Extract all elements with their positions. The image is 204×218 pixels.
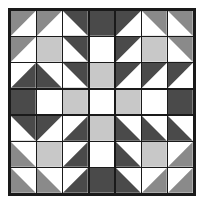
quilt-cell [142,63,167,88]
quilt-patch [168,168,193,193]
quilt-cell [11,142,36,167]
quilt-patch [168,11,193,36]
quilt-cell [11,90,36,115]
quilt-cell [37,90,62,115]
patch-solid [116,90,141,115]
quilt-patch [90,37,115,62]
quilt-patch [37,168,62,193]
quilt-patch [63,116,88,141]
quilt-patch [11,142,36,167]
quilt-patch [90,142,115,167]
quilt-cell [63,63,88,88]
patch-solid [142,90,167,115]
quilt-cell [168,116,193,141]
quilt-cell [37,116,62,141]
quilt-cell [116,37,141,62]
quilt-cell [116,11,141,36]
quilt-cell [37,142,62,167]
quilt-cell [116,116,141,141]
quilt-patch [142,116,167,141]
patch-solid [90,37,115,62]
quilt-cell [168,63,193,88]
patch-solid [11,90,36,115]
patch-solid [37,90,62,115]
quilt-cell [90,90,115,115]
quilt-patch [90,11,115,36]
quilt-patch [37,142,62,167]
patch-solid [168,90,193,115]
quilt-cell [11,168,36,193]
quilt-cell [90,37,115,62]
patch-solid [90,63,115,88]
quilt-patch [142,90,167,115]
quilt-patch [142,11,167,36]
quilt-patch [63,142,88,167]
quilt-cell [142,37,167,62]
quilt-patch [63,168,88,193]
quilt-patch [63,11,88,36]
quilt-patch [63,63,88,88]
quilt-cell [63,11,88,36]
patch-solid [37,142,62,167]
quilt-patch [11,90,36,115]
quilt-cell [168,90,193,115]
quilt-cell [37,37,62,62]
quilt-patch [116,90,141,115]
quilt-patch [11,63,36,88]
quilt-patch [142,37,167,62]
patch-solid [37,37,62,62]
quilt-cell [142,116,167,141]
quilt-patch [37,11,62,36]
quilt-patch [90,63,115,88]
quilt-patch [142,142,167,167]
quilt-patch [90,168,115,193]
quilt-frame [8,8,196,196]
quilt-cell [142,142,167,167]
quilt-patch [90,116,115,141]
quilt-cell [37,168,62,193]
quilt-patch [142,168,167,193]
quilt-patch [116,168,141,193]
quilt-cell [11,37,36,62]
patch-solid [142,142,167,167]
quilt-cell [11,116,36,141]
quilt-patch [37,116,62,141]
quilt-patch [37,37,62,62]
patch-solid [90,11,115,36]
quilt-cell [37,63,62,88]
quilt-patch [63,90,88,115]
quilt-patch [37,90,62,115]
quilt-patch [11,37,36,62]
quilt-cell [90,63,115,88]
quilt-figure [0,0,204,218]
quilt-cell [168,142,193,167]
patch-solid [90,90,115,115]
quilt-patch [168,90,193,115]
quilt-cell [142,11,167,36]
quilt-patch [116,63,141,88]
quilt-cell [63,90,88,115]
quilt-grid [11,11,193,193]
quilt-cell [90,11,115,36]
quilt-patch [37,63,62,88]
quilt-patch [116,37,141,62]
quilt-cell [37,11,62,36]
patch-solid [90,142,115,167]
quilt-patch [168,116,193,141]
quilt-cell [142,90,167,115]
quilt-cell [11,63,36,88]
quilt-cell [63,142,88,167]
quilt-patch [116,142,141,167]
quilt-patch [11,116,36,141]
quilt-cell [11,11,36,36]
quilt-patch [168,63,193,88]
quilt-cell [116,63,141,88]
quilt-patch [142,63,167,88]
patch-solid [90,168,115,193]
quilt-cell [63,37,88,62]
quilt-cell [90,168,115,193]
quilt-patch [116,116,141,141]
quilt-patch [63,37,88,62]
quilt-patch [116,11,141,36]
quilt-cell [63,168,88,193]
